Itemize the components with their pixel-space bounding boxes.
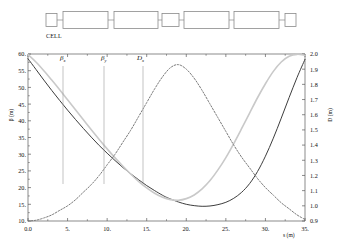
y2-axis-tick-0_9: 0.9 [310, 217, 330, 224]
y2-axis-tick-1_2: 1.2 [310, 172, 330, 179]
y2-axis-tick-1_0: 1.0 [310, 202, 330, 209]
x-axis-tick-10: 10. [98, 225, 116, 232]
y-axis-tick-40: 40. [2, 117, 26, 124]
lattice-diagram: CELL [0, 0, 341, 46]
y2-axis-tick-1_1: 1.1 [310, 187, 330, 194]
y2-axis-tick-1_4: 1.4 [310, 141, 330, 148]
y-axis-tick-60: 60. [2, 50, 26, 57]
y-axis-tick-50: 50. [2, 84, 26, 91]
dispersion-x-label: Dx [137, 54, 144, 63]
x-axis-tick-35: 35. [296, 225, 314, 232]
y-axis-tick-10: 10. [2, 217, 26, 224]
y-axis-tick-55: 55. [2, 67, 26, 74]
y-axis-tick-35: 35. [2, 134, 26, 141]
y2-axis-tick-1_9: 1.9 [310, 66, 330, 73]
beta-y-label: βy [101, 54, 107, 63]
y-axis-tick-25: 25. [2, 167, 26, 174]
y-axis-tick-15: 15. [2, 201, 26, 208]
y2-axis-tick-1_8: 1.8 [310, 81, 330, 88]
x-axis-tick-15: 15. [138, 225, 156, 232]
y-axis-tick-30: 30. [2, 151, 26, 158]
y2-axis-tick-2_0: 2.0 [310, 50, 330, 57]
x-axis-tick-25: 25. [217, 225, 235, 232]
x-axis-label: s (m) [283, 232, 295, 238]
lattice-cell-label: CELL [46, 33, 62, 39]
y-axis-left-label: β (m) [8, 102, 14, 128]
y-axis-right-label: D (m) [327, 102, 333, 128]
figure-root: CELL 60.55.50.45.40.35.30.25.20.15.10.2.… [0, 0, 341, 249]
x-axis-tick-20: 20. [177, 225, 195, 232]
lattice-svg [0, 0, 341, 46]
y2-axis-tick-1_3: 1.3 [310, 157, 330, 164]
plot-svg [0, 44, 341, 249]
y-axis-tick-20: 20. [2, 184, 26, 191]
x-axis-tick-30: 30. [256, 225, 274, 232]
series-y [28, 54, 305, 200]
plot-area: 60.55.50.45.40.35.30.25.20.15.10.2.01.91… [0, 44, 341, 249]
x-axis-tick-5: 5. [59, 225, 77, 232]
series-x [28, 59, 305, 207]
y-axis-tick-45: 45. [2, 101, 26, 108]
beta-x-label: βx [60, 54, 66, 63]
x-axis-tick-0: 0.0 [19, 225, 37, 232]
